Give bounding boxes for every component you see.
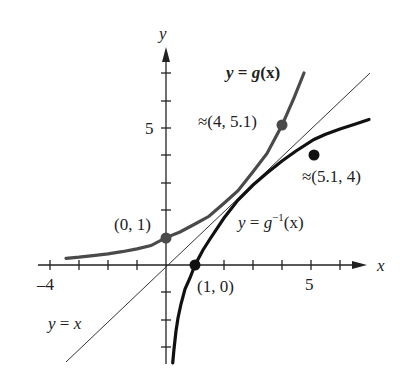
y-axis xyxy=(161,47,171,364)
point-4-5.1 xyxy=(277,120,288,131)
g-inverse-curve-label: y = g−1(x) xyxy=(236,211,304,232)
x-tick-label-neg4: –4 xyxy=(36,275,55,294)
point-1-0 xyxy=(190,260,201,271)
g-curve-label: y = g(x) xyxy=(224,63,280,82)
point-label-0-1: (0, 1) xyxy=(114,215,151,234)
inverse-function-graph: y x –4 5 5 y = g(x) y = g−1(x) y = x (0,… xyxy=(0,0,404,383)
point-label-1-0: (1, 0) xyxy=(197,277,234,296)
point-0-1 xyxy=(161,233,172,244)
point-label-5.1-4: ≈(5.1, 4) xyxy=(302,167,361,186)
chart-canvas: y x –4 5 5 y = g(x) y = g−1(x) y = x (0,… xyxy=(0,0,404,383)
y-axis-arrow-icon xyxy=(162,47,170,62)
y-axis-label: y xyxy=(157,24,167,43)
g-inverse-curve xyxy=(173,120,369,364)
x-axis-label: x xyxy=(376,256,385,275)
identity-line-label: y = x xyxy=(46,314,82,333)
y-tick-label-5: 5 xyxy=(145,119,154,138)
point-5.1-4 xyxy=(309,150,320,161)
x-axis xyxy=(38,260,367,270)
point-label-4-5.1: ≈(4, 5.1) xyxy=(198,112,257,131)
x-tick-label-5: 5 xyxy=(305,275,314,294)
x-axis-arrow-icon xyxy=(352,261,367,269)
